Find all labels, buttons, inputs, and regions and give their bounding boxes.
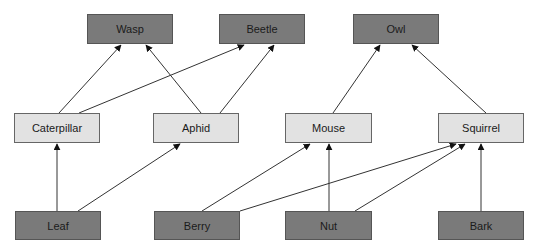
- node-label: Mouse: [312, 122, 345, 134]
- node-label: Caterpillar: [32, 122, 82, 134]
- node-owl: Owl: [353, 14, 439, 44]
- edge-caterpillar-to-wasp: [59, 45, 121, 113]
- node-label: Owl: [387, 23, 406, 35]
- edge-aphid-to-beetle: [220, 45, 274, 113]
- edge-nut-to-squirrel: [355, 144, 465, 211]
- edge-squirrel-to-owl: [412, 45, 486, 113]
- node-label: Berry: [184, 220, 210, 232]
- node-aphid: Aphid: [153, 113, 239, 143]
- node-label: Bark: [470, 220, 493, 232]
- node-bark: Bark: [438, 211, 524, 240]
- node-beetle: Beetle: [219, 14, 305, 44]
- node-squirrel: Squirrel: [438, 113, 524, 143]
- node-leaf: Leaf: [15, 211, 101, 240]
- node-caterpillar: Caterpillar: [14, 113, 100, 143]
- node-label: Beetle: [246, 23, 277, 35]
- node-wasp: Wasp: [87, 14, 173, 44]
- node-label: Squirrel: [462, 122, 500, 134]
- edge-berry-to-mouse: [202, 144, 310, 211]
- node-mouse: Mouse: [285, 113, 372, 143]
- node-label: Nut: [320, 220, 337, 232]
- edge-leaf-to-aphid: [78, 144, 180, 211]
- edge-caterpillar-to-beetle: [79, 45, 244, 113]
- node-berry: Berry: [154, 211, 240, 240]
- node-label: Wasp: [116, 23, 144, 35]
- node-nut: Nut: [285, 211, 372, 240]
- edge-mouse-to-owl: [333, 45, 380, 113]
- node-label: Aphid: [182, 122, 210, 134]
- node-label: Leaf: [47, 220, 68, 232]
- edge-aphid-to-wasp: [146, 45, 201, 113]
- edge-berry-to-squirrel: [240, 144, 456, 211]
